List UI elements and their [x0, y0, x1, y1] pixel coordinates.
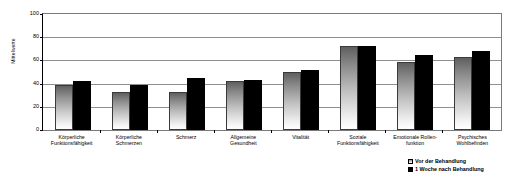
y-axis-tick-mark	[40, 14, 43, 15]
bar-group	[443, 14, 500, 130]
bar-post-treatment	[73, 81, 91, 130]
bar-pre-treatment	[55, 85, 73, 130]
x-axis-category-label: PsychischesWohlbefinden	[444, 134, 501, 147]
bar-groups	[44, 14, 500, 130]
y-axis-tick-mark	[40, 130, 43, 131]
y-axis-tick-mark	[40, 107, 43, 108]
x-axis-label-line: Schmerzen	[101, 140, 156, 146]
plot-area: 020406080100	[42, 13, 502, 131]
bar-pre-treatment	[226, 81, 244, 130]
y-axis-tick-mark	[40, 37, 43, 38]
bar-pre-treatment	[112, 92, 130, 130]
y-axis-tick-label: 20	[7, 104, 39, 110]
x-axis-category-label: Vitalität	[272, 134, 329, 147]
bar-pre-treatment	[169, 92, 187, 130]
bar-post-treatment	[358, 46, 376, 130]
x-axis-label-line: Funktionsfähigkeit	[330, 140, 385, 146]
x-axis-category-label: KörperlicheFunktionsfähigkeit	[43, 134, 100, 147]
bar-post-treatment	[187, 78, 205, 130]
bar-pre-treatment	[397, 62, 415, 130]
y-axis-tick-label: 40	[7, 81, 39, 87]
bar-pre-treatment	[454, 57, 472, 130]
bar-group	[329, 14, 386, 130]
x-axis-category-label: Schmerz	[158, 134, 215, 147]
bar-group	[272, 14, 329, 130]
bar-group	[44, 14, 101, 130]
y-axis-tick-label: 100	[7, 11, 39, 17]
legend-swatch-pre-icon	[408, 159, 413, 164]
x-axis-category-label: KörperlicheSchmerzen	[100, 134, 157, 147]
x-axis-labels: KörperlicheFunktionsfähigkeitKörperliche…	[43, 134, 501, 147]
x-axis-label-line: Gesundheit	[216, 140, 271, 146]
x-axis-label-line: Wohlbefinden	[445, 140, 500, 146]
x-axis-category-label: SozialeFunktionsfähigkeit	[329, 134, 386, 147]
bar-post-treatment	[415, 55, 433, 130]
y-axis-tick-mark	[40, 60, 43, 61]
bar-post-treatment	[301, 70, 319, 130]
bar-post-treatment	[472, 51, 490, 130]
bar-group	[386, 14, 443, 130]
bar-pre-treatment	[283, 72, 301, 130]
y-axis-tick-label: 0	[7, 127, 39, 133]
y-axis-title: Mittelwerte	[10, 16, 16, 86]
chart-screenshot: Mittelwerte 020406080100 KörperlicheFunk…	[0, 0, 523, 180]
y-axis-tick-label: 80	[7, 34, 39, 40]
y-axis-tick-mark	[40, 84, 43, 85]
bar-group	[101, 14, 158, 130]
x-axis-label-line: Vitalität	[273, 134, 328, 140]
bar-pre-treatment	[340, 46, 358, 130]
bar-group	[158, 14, 215, 130]
chart-legend: Vor der Behandlung 1 Woche nach Behandlu…	[408, 157, 484, 173]
bar-group	[215, 14, 272, 130]
bar-post-treatment	[244, 80, 262, 130]
legend-item-pre: Vor der Behandlung	[408, 157, 484, 165]
x-axis-label-line: funktion	[388, 140, 443, 146]
x-axis-category-label: Emotionale Rollen-funktion	[387, 134, 444, 147]
legend-label-post: 1 Woche nach Behandlung	[415, 165, 484, 173]
legend-item-post: 1 Woche nach Behandlung	[408, 165, 484, 173]
bar-post-treatment	[130, 85, 148, 130]
y-axis-tick-label: 60	[7, 58, 39, 64]
legend-swatch-post-icon	[408, 167, 413, 172]
legend-label-pre: Vor der Behandlung	[415, 157, 466, 165]
x-axis-label-line: Schmerz	[159, 134, 214, 140]
x-axis-category-label: AllgemeineGesundheit	[215, 134, 272, 147]
x-axis-label-line: Funktionsfähigkeit	[44, 140, 99, 146]
